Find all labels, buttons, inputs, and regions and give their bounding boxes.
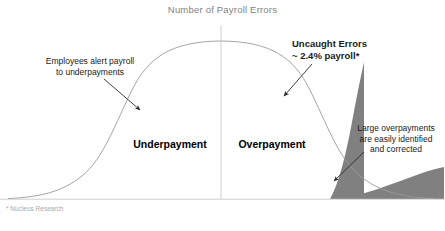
payroll-errors-chart: Number of Payroll Errors Employees alert… bbox=[0, 0, 445, 231]
chart-footnote: * Nucleus Research bbox=[6, 205, 63, 213]
annotation-employees-alert: Employees alert payroll to underpayments bbox=[24, 56, 156, 77]
uncaught-errors-arrow bbox=[284, 64, 312, 96]
annotation-large-overpayments-line1: Large overpayments bbox=[349, 123, 443, 134]
region-label-overpayment: Overpayment bbox=[222, 138, 322, 151]
annotation-uncaught-errors: Uncaught Errors ~ 2.4% payroll* bbox=[292, 38, 416, 62]
annotation-large-overpayments-line2: are easily identified bbox=[349, 134, 443, 145]
employees-alert-arrow bbox=[104, 79, 140, 110]
annotation-uncaught-errors-line1: Uncaught Errors bbox=[292, 38, 416, 50]
annotation-uncaught-errors-line2: ~ 2.4% payroll* bbox=[292, 50, 416, 62]
annotation-employees-alert-line1: Employees alert payroll bbox=[24, 56, 156, 67]
chart-canvas bbox=[0, 0, 445, 231]
annotation-large-overpayments: Large overpayments are easily identified… bbox=[349, 123, 443, 155]
region-label-underpayment: Underpayment bbox=[120, 138, 220, 151]
annotation-employees-alert-line2: to underpayments bbox=[24, 67, 156, 78]
chart-title: Number of Payroll Errors bbox=[0, 4, 445, 16]
annotation-large-overpayments-line3: and corrected bbox=[349, 144, 443, 155]
